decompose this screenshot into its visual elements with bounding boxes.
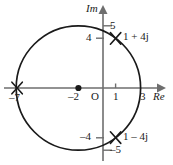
point-label-1-minus-4j: 1 – 4j xyxy=(123,131,148,142)
imaginary-axis-arrowhead xyxy=(99,5,108,14)
imag-tick-label-5: 5 xyxy=(110,20,116,31)
real-tick-label-1: 1 xyxy=(113,91,119,102)
imag-tick-label-4: 4 xyxy=(86,32,92,43)
real-tick-label-minus7: –7 xyxy=(9,92,20,103)
imaginary-axis-label: Im xyxy=(86,3,98,14)
argand-diagram-figure: Im Re O –7 –2 1 3 5 4 –4 –5 1 + 4j 1 – 4… xyxy=(0,0,173,165)
cross-marker-1-plus-4j xyxy=(110,33,120,45)
real-axis-label: Re xyxy=(153,91,165,102)
real-tick-label-3: 3 xyxy=(140,91,146,102)
real-tick-label-minus2: –2 xyxy=(68,91,79,102)
point-label-1-plus-4j: 1 + 4j xyxy=(123,31,149,42)
imag-tick-label-minus-5: –5 xyxy=(110,144,121,155)
origin-label: O xyxy=(91,91,99,102)
cross-marker-1-minus-4j xyxy=(110,132,120,144)
imag-tick-label-minus-4: –4 xyxy=(80,131,91,142)
